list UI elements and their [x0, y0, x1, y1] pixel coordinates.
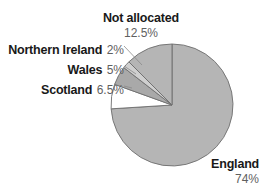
pie-label-not-allocated-name: Not allocated — [103, 11, 179, 25]
pie-label-wales-value: 5% — [107, 63, 124, 77]
pie-label-scotland-name: Scotland — [41, 83, 92, 97]
pie-label-scotland-value: 6.5% — [97, 83, 124, 97]
pie-label-wales-name: Wales — [68, 63, 103, 77]
pie-label-scotland: Scotland 6.5% — [2, 80, 124, 98]
pie-label-northern-ireland-value: 2% — [107, 43, 124, 57]
pie-label-england: England 74% — [183, 154, 259, 186]
pie-label-northern-ireland: Northern Ireland 2% — [2, 40, 124, 58]
pie-chart-figure: Not allocated 12.5% Northern Ireland 2% … — [0, 0, 263, 192]
pie-label-northern-ireland-name: Northern Ireland — [8, 43, 102, 57]
pie-label-england-value: 74% — [183, 173, 259, 186]
pie-label-wales: Wales 5% — [2, 60, 124, 78]
pie-label-not-allocated: Not allocated 12.5% — [88, 8, 194, 40]
pie-label-not-allocated-value: 12.5% — [88, 27, 194, 40]
pie-slice-group — [111, 44, 233, 166]
pie-label-england-name: England — [211, 157, 259, 171]
